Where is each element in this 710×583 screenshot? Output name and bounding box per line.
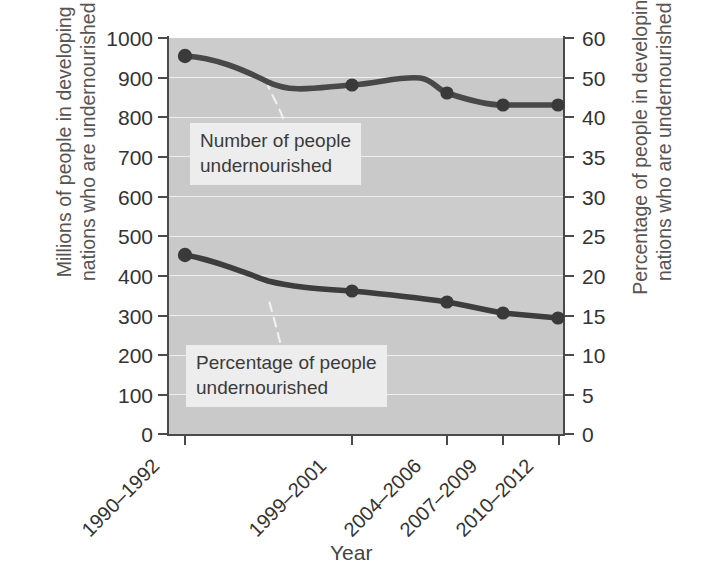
annotation-number-line1: Number of people <box>200 130 351 151</box>
y-axis-left-title-line1: Millions of people in developing <box>53 6 75 277</box>
y-axis-left-line <box>167 36 169 436</box>
gridline <box>168 236 563 237</box>
y-tick-right <box>565 433 574 435</box>
y-tick-left <box>158 394 167 396</box>
annotation-number-line2: undernourished <box>200 155 332 176</box>
x-category-label: 1990–1992 <box>78 455 163 540</box>
y-axis-left-title-line2: nations who are undernourished <box>77 2 99 281</box>
y-tick-left <box>158 196 167 198</box>
plot-band <box>168 196 563 236</box>
y-tick-right <box>565 354 574 356</box>
y-tick-right <box>565 156 574 158</box>
gridline <box>168 196 563 197</box>
x-tick <box>184 436 186 445</box>
y-tick-label-left: 200 <box>58 345 153 366</box>
y-tick-right <box>565 235 574 237</box>
x-axis-title: Year <box>330 540 372 566</box>
x-category-label: 1999–2001 <box>245 455 330 540</box>
y-tick-right <box>565 275 574 277</box>
y-tick-left <box>158 116 167 118</box>
y-tick-label-right: 10 <box>582 345 642 366</box>
gridline <box>168 315 563 316</box>
x-tick <box>446 436 448 445</box>
annotation-percent-line2: undernourished <box>196 377 328 398</box>
annotation-percent-line1: Percentage of people <box>196 352 377 373</box>
y-tick-left <box>158 433 167 435</box>
y-tick-right <box>565 37 574 39</box>
annotation-number-undernourished: Number of people undernourished <box>190 123 361 185</box>
y-tick-label-right: 5 <box>582 385 642 406</box>
y-tick-right <box>565 77 574 79</box>
y-tick-left <box>158 235 167 237</box>
x-tick <box>351 436 353 445</box>
plot-band <box>168 38 563 78</box>
gridline <box>168 117 563 118</box>
y-tick-left <box>158 37 167 39</box>
gridline <box>168 275 563 276</box>
y-tick-right <box>565 394 574 396</box>
y-tick-label-left: 0 <box>58 424 153 445</box>
y-tick-right <box>565 315 574 317</box>
gridline <box>168 77 563 78</box>
y-axis-left-title: Millions of people in developing nations… <box>53 0 101 337</box>
y-tick-left <box>158 354 167 356</box>
y-tick-left <box>158 156 167 158</box>
y-tick-label-right: 0 <box>582 424 642 445</box>
y-tick-label-left: 100 <box>58 385 153 406</box>
y-axis-right-title: Percentage of people in developing natio… <box>629 0 677 337</box>
x-tick <box>502 436 504 445</box>
y-tick-right <box>565 196 574 198</box>
y-tick-left <box>158 77 167 79</box>
y-axis-right-title-line2: nations who are undernourished <box>653 2 675 281</box>
y-tick-left <box>158 275 167 277</box>
plot-band <box>168 276 563 316</box>
x-axis-line <box>167 434 565 436</box>
y-tick-left <box>158 315 167 317</box>
y-tick-right <box>565 116 574 118</box>
x-tick <box>558 436 560 445</box>
chart-figure: 1000 900 800 700 600 500 400 300 200 100… <box>0 0 710 583</box>
y-axis-right-title-line1: Percentage of people in developing <box>629 0 651 295</box>
annotation-percentage-undernourished: Percentage of people undernourished <box>186 345 387 407</box>
